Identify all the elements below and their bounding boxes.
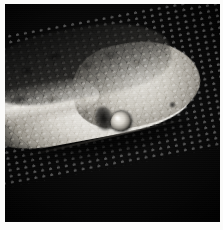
snake-photograph: Close-up photograph of a snake's head in… xyxy=(5,4,220,222)
photo-canvas xyxy=(5,4,220,222)
screenshot-root: Close-up photograph of a snake's head in… xyxy=(0,0,223,230)
